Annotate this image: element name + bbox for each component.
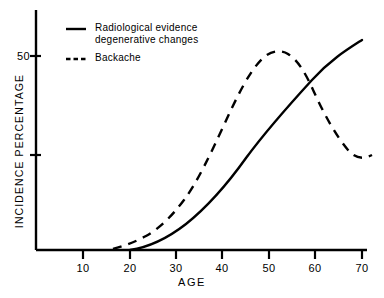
x-axis-title: AGE [0,276,384,288]
legend-solid-line-icon [66,22,86,36]
x-tick-label-40: 40 [215,262,228,274]
legend-dashed-line-icon [66,52,86,66]
legend-item-backache: Backache [66,52,198,66]
x-tick-label-50: 50 [262,262,275,274]
legend-label-backache: Backache [95,52,141,64]
y-axis-title: INCIDENCE PERCENTAGE [13,66,25,236]
y-tick-label-50: 50 [10,50,30,62]
series-backache-curve [113,51,372,249]
x-tick-label-30: 30 [169,262,182,274]
x-ticks [83,250,362,259]
x-tick-label-70: 70 [355,262,368,274]
chart-legend: Radiological evidence degenerative chang… [66,22,198,73]
chart-figure: 50 10 20 30 40 50 60 70 AGE INCIDENCE PE… [0,0,384,298]
x-tick-label-10: 10 [76,262,89,274]
x-tick-label-60: 60 [308,262,321,274]
legend-item-radiological-evidence: Radiological evidence degenerative chang… [66,22,198,45]
legend-label-radiological-evidence: Radiological evidence degenerative chang… [95,22,198,45]
x-tick-label-20: 20 [123,262,136,274]
